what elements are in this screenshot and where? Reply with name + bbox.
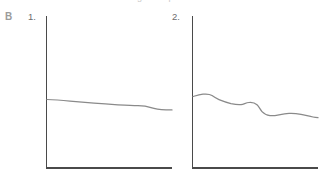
chart2-data-line bbox=[193, 94, 318, 118]
chart1-data-line bbox=[47, 100, 172, 110]
chart1-axes bbox=[47, 16, 173, 168]
figure-panel-b: figure caption B 1. 2. bbox=[0, 0, 321, 173]
charts-canvas bbox=[0, 0, 321, 173]
chart2-axes bbox=[193, 16, 319, 168]
